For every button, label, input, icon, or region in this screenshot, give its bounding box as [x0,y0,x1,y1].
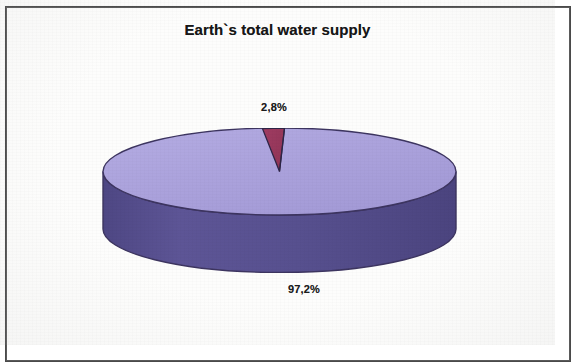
chart-title: Earth`s total water supply [0,21,555,38]
pie-label-large-slice: 97,2% [249,283,359,295]
pie-chart-3d [102,128,457,273]
pie-label-small-slice: 2,8% [219,101,329,113]
pie-chart-svg [102,128,457,273]
